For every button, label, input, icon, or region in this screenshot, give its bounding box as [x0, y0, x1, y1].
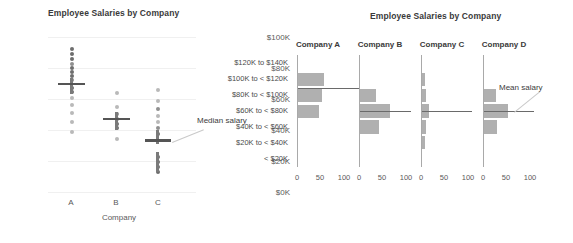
x-axis-tick: 50	[497, 173, 515, 182]
data-point	[156, 120, 160, 124]
data-point	[70, 52, 74, 56]
data-point	[70, 120, 74, 124]
row-label: $60K to < $80K	[200, 106, 288, 115]
bar	[360, 120, 379, 134]
data-point	[70, 111, 74, 115]
gridline	[48, 192, 196, 193]
median-stem	[156, 130, 159, 144]
column-header-company-a: Company A	[288, 40, 348, 49]
y-axis-tick: $0K	[244, 188, 290, 197]
data-point	[156, 99, 160, 103]
right-chart-title: Employee Salaries by Company	[370, 11, 501, 21]
bar	[422, 120, 426, 134]
mean-line-company-c	[422, 111, 472, 112]
bar	[360, 89, 376, 102]
data-point	[70, 130, 74, 134]
x-axis-category-a: A	[51, 198, 91, 207]
small-multiples-chart: Employee Salaries by Company Company A C…	[290, 0, 573, 243]
data-point	[70, 96, 74, 100]
row-label: $20K to < $40K	[200, 138, 288, 147]
data-point	[70, 47, 74, 51]
x-axis-tick: 50	[373, 173, 391, 182]
bar	[484, 89, 496, 102]
median-stem	[115, 112, 118, 130]
data-point	[70, 57, 74, 61]
x-axis-tick: 50	[311, 173, 329, 182]
gridline	[48, 161, 196, 162]
annotation-leader-line	[514, 91, 540, 113]
mean-line-company-b	[360, 111, 411, 112]
median-marker-c	[145, 139, 171, 142]
data-point	[115, 137, 119, 141]
x-axis-category-c: C	[138, 198, 178, 207]
column-header-company-d: Company D	[474, 40, 534, 49]
gridline	[48, 37, 196, 38]
mean-salary-annotation: Mean salary	[499, 83, 543, 92]
y-axis-tick: $100K	[244, 33, 290, 42]
bar	[298, 105, 319, 118]
bar	[484, 120, 497, 134]
median-marker-a	[58, 83, 85, 85]
left-chart-title: Employee Salaries by Company	[48, 8, 179, 18]
row-label: $40K to < $60K	[200, 122, 288, 131]
x-axis-tick: 50	[435, 173, 453, 182]
bar	[422, 89, 426, 102]
mean-line-company-d	[484, 111, 534, 112]
data-point	[156, 107, 160, 111]
column-header-company-b: Company B	[350, 40, 410, 49]
data-point	[156, 114, 160, 118]
median-stem	[156, 152, 159, 172]
data-point	[115, 105, 119, 109]
median-marker-b	[103, 118, 130, 120]
row-label: < $20K	[200, 154, 288, 163]
x-axis-tick: 0	[474, 173, 492, 182]
data-point	[70, 103, 74, 107]
bar	[298, 89, 322, 102]
row-label: $80K to < $100K	[200, 90, 288, 99]
x-axis-tick: 0	[350, 173, 368, 182]
median-stem	[70, 78, 73, 94]
mean-line-company-a	[298, 88, 360, 89]
x-axis-tick: 0	[412, 173, 430, 182]
row-label: $120K to $140K	[200, 58, 288, 67]
column-header-company-c: Company C	[412, 40, 472, 49]
bar	[422, 73, 425, 86]
x-axis-tick: 0	[288, 173, 306, 182]
bar	[298, 73, 324, 86]
x-axis-tick: 100	[521, 173, 539, 182]
row-label: $100K to < $120K	[200, 74, 288, 83]
x-axis-label: Company	[79, 213, 159, 222]
data-point	[156, 88, 160, 92]
bar	[422, 136, 425, 149]
x-axis-category-b: B	[96, 198, 136, 207]
data-point	[115, 91, 119, 95]
